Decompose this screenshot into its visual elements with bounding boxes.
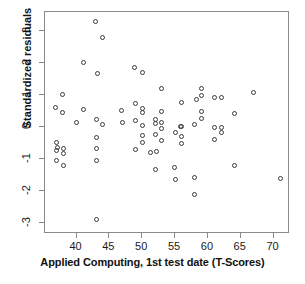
data-point bbox=[94, 158, 99, 163]
data-point bbox=[81, 60, 86, 65]
data-point bbox=[54, 158, 59, 163]
x-tick-label: 55 bbox=[162, 240, 186, 252]
data-point bbox=[232, 163, 237, 168]
data-point bbox=[61, 146, 66, 151]
y-tick-label: -1 bbox=[20, 148, 32, 168]
data-point bbox=[154, 149, 159, 154]
data-point bbox=[219, 95, 224, 100]
data-point bbox=[194, 97, 199, 102]
data-point bbox=[140, 70, 145, 75]
data-point bbox=[172, 165, 177, 170]
x-tick-mark bbox=[240, 233, 241, 238]
data-point bbox=[192, 122, 197, 127]
data-point bbox=[140, 110, 145, 115]
x-tick-label: 60 bbox=[195, 240, 219, 252]
x-tick-mark bbox=[174, 233, 175, 238]
data-point bbox=[133, 118, 138, 123]
data-point bbox=[159, 126, 164, 131]
data-point bbox=[179, 100, 184, 105]
x-tick-mark bbox=[273, 233, 274, 238]
x-tick-label: 40 bbox=[64, 240, 88, 252]
data-point bbox=[140, 133, 145, 138]
data-point bbox=[133, 101, 138, 106]
data-point bbox=[212, 137, 217, 142]
data-point bbox=[140, 140, 145, 145]
data-point bbox=[199, 116, 204, 121]
data-point bbox=[95, 71, 100, 76]
y-tick-mark bbox=[39, 94, 44, 95]
x-tick-mark bbox=[207, 233, 208, 238]
y-tick-mark bbox=[39, 30, 44, 31]
data-point bbox=[232, 111, 237, 116]
data-point bbox=[94, 146, 99, 151]
data-point bbox=[74, 120, 79, 125]
data-point bbox=[100, 35, 105, 40]
y-tick-mark bbox=[39, 158, 44, 159]
data-point bbox=[173, 177, 178, 182]
data-point bbox=[61, 163, 66, 168]
data-point bbox=[212, 95, 217, 100]
data-point bbox=[120, 120, 125, 125]
data-points-layer bbox=[45, 12, 288, 232]
data-point bbox=[173, 130, 178, 135]
data-point bbox=[212, 125, 217, 130]
y-tick-label: -2 bbox=[20, 180, 32, 200]
data-point bbox=[278, 176, 283, 181]
plot-area bbox=[44, 11, 289, 233]
y-tick-mark bbox=[39, 222, 44, 223]
data-point bbox=[179, 141, 184, 146]
x-tick-mark bbox=[108, 233, 109, 238]
y-tick-mark bbox=[39, 190, 44, 191]
x-tick-label: 70 bbox=[261, 240, 285, 252]
data-point bbox=[192, 192, 197, 197]
data-point bbox=[60, 110, 65, 115]
data-point bbox=[192, 175, 197, 180]
y-axis-label: Standardized residuals bbox=[21, 0, 33, 148]
data-point bbox=[219, 130, 224, 135]
data-point bbox=[148, 150, 153, 155]
y-tick-mark bbox=[39, 126, 44, 127]
data-point bbox=[132, 65, 137, 70]
x-tick-label: 50 bbox=[129, 240, 153, 252]
data-point bbox=[53, 105, 58, 110]
data-point bbox=[133, 147, 138, 152]
x-tick-mark bbox=[76, 233, 77, 238]
x-tick-label: 65 bbox=[228, 240, 252, 252]
data-point bbox=[159, 86, 164, 91]
data-point bbox=[159, 138, 164, 143]
data-point bbox=[93, 19, 98, 24]
scatter-plot-figure: 40455055606570 3210-1-2-3 Applied Comput… bbox=[0, 0, 305, 284]
data-point bbox=[199, 86, 204, 91]
data-point bbox=[159, 120, 164, 125]
data-point bbox=[159, 109, 164, 114]
data-point bbox=[81, 107, 86, 112]
x-axis-label: Applied Computing, 1st test date (T-Scor… bbox=[0, 256, 305, 268]
data-point bbox=[60, 92, 65, 97]
data-point bbox=[179, 134, 184, 139]
data-point bbox=[140, 123, 145, 128]
x-tick-label: 45 bbox=[96, 240, 120, 252]
data-point bbox=[199, 93, 204, 98]
data-point bbox=[94, 135, 99, 140]
x-tick-mark bbox=[141, 233, 142, 238]
data-point bbox=[251, 90, 256, 95]
y-tick-label: -3 bbox=[20, 212, 32, 232]
data-point bbox=[199, 109, 204, 114]
data-point bbox=[153, 167, 158, 172]
data-point bbox=[153, 132, 158, 137]
y-tick-mark bbox=[39, 62, 44, 63]
data-point bbox=[153, 121, 158, 126]
data-point bbox=[100, 122, 105, 127]
data-point bbox=[94, 217, 99, 222]
data-point bbox=[61, 151, 66, 156]
data-point bbox=[54, 148, 59, 153]
data-point bbox=[119, 108, 124, 113]
data-point bbox=[94, 117, 99, 122]
